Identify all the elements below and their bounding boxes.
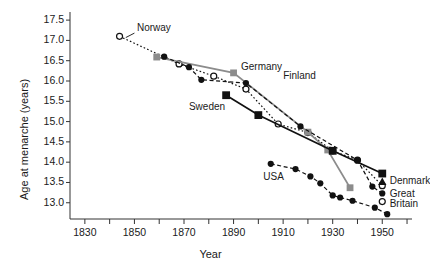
- y-tick-label: 13.0: [30, 196, 64, 208]
- series-label-denmark: Denmark: [390, 175, 430, 186]
- marker-gray-square: [230, 69, 237, 76]
- y-tick-label: 14.0: [30, 155, 64, 167]
- marker-open-circle: [243, 86, 249, 92]
- series-label-usa: USA: [263, 171, 284, 182]
- marker-gray-square: [347, 184, 354, 191]
- marker-filled-circle: [186, 64, 192, 70]
- marker-filled-circle: [379, 190, 385, 196]
- series-denmark: [378, 177, 386, 185]
- series-line: [157, 57, 350, 188]
- x-tick-label: 1830: [65, 226, 105, 238]
- x-tick-label: 1870: [164, 226, 204, 238]
- y-tick-label: 17.0: [30, 33, 64, 45]
- series-label-germany: Germany: [241, 61, 282, 72]
- x-tick-label: 1850: [114, 226, 154, 238]
- marker-filled-circle: [349, 198, 355, 204]
- marker-filled-circle: [337, 194, 343, 200]
- marker-filled-circle: [317, 180, 323, 186]
- y-tick-label: 13.5: [30, 175, 64, 187]
- y-tick-label: 17.5: [30, 13, 64, 25]
- x-tick-label: 1910: [263, 226, 303, 238]
- marker-filled-circle: [292, 166, 298, 172]
- marker-filled-square: [378, 170, 386, 178]
- marker-filled-circle: [307, 173, 313, 179]
- marker-filled-circle: [372, 205, 378, 211]
- marker-filled-circle: [369, 183, 375, 189]
- y-axis-title: Age at menarche (years): [18, 79, 30, 200]
- marker-gray-square: [153, 54, 160, 61]
- x-axis-title: Year: [0, 248, 421, 260]
- marker-filled-square: [329, 147, 337, 155]
- marker-filled-circle: [198, 77, 204, 83]
- marker-filled-circle: [384, 211, 390, 217]
- marker-filled-circle: [297, 123, 303, 129]
- marker-open-circle: [211, 73, 217, 79]
- y-tick-label: 14.5: [30, 135, 64, 147]
- norway-leader-line: [126, 33, 135, 37]
- marker-filled-circle: [243, 80, 249, 86]
- series-label-sweden: Sweden: [189, 101, 225, 112]
- marker-filled-circle: [268, 161, 274, 167]
- marker-filled-circle: [330, 192, 336, 198]
- series-label-great-britain-line2: Britain: [390, 198, 418, 209]
- y-tick-label: 15.0: [30, 115, 64, 127]
- x-tick-label: 1890: [214, 226, 254, 238]
- series-label-norway: Norway: [137, 22, 171, 33]
- series-sweden: [222, 91, 386, 177]
- marker-open-circle: [117, 33, 123, 39]
- marker-filled-square: [222, 91, 230, 99]
- series-label-finland: Finland: [283, 70, 316, 81]
- marker-filled-circle: [161, 54, 167, 60]
- marker-filled-square: [254, 111, 262, 119]
- series-germany: [153, 54, 353, 191]
- marker-filled-triangle: [378, 177, 386, 185]
- y-tick-label: 16.5: [30, 54, 64, 66]
- y-tick-label: 16.0: [30, 74, 64, 86]
- marker-open-circle: [379, 199, 385, 205]
- series-great-britain: [379, 199, 385, 205]
- series-line: [271, 164, 387, 214]
- y-tick-label: 15.5: [30, 94, 64, 106]
- x-tick-label: 1930: [313, 226, 353, 238]
- x-tick-label: 1950: [362, 226, 402, 238]
